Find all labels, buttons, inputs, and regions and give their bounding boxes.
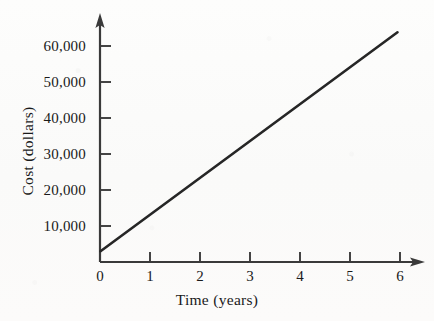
y-axis-title: Cost (dollars) bbox=[19, 51, 37, 251]
x-axis-title: Time (years) bbox=[0, 291, 434, 309]
x-tick-label-3: 3 bbox=[238, 269, 262, 284]
x-tick-label-0: 0 bbox=[88, 269, 112, 284]
x-tick-label-6: 6 bbox=[388, 269, 412, 284]
x-tick-label-5: 5 bbox=[338, 269, 362, 284]
cost-vs-time-line-chart: 10,000 20,000 30,000 40,000 50,000 60,00… bbox=[0, 0, 434, 321]
x-tick-label-4: 4 bbox=[288, 269, 312, 284]
x-tick-label-1: 1 bbox=[138, 269, 162, 284]
x-axis-tick-label-group: 0 1 2 3 4 5 6 bbox=[0, 0, 434, 321]
x-tick-label-2: 2 bbox=[188, 269, 212, 284]
